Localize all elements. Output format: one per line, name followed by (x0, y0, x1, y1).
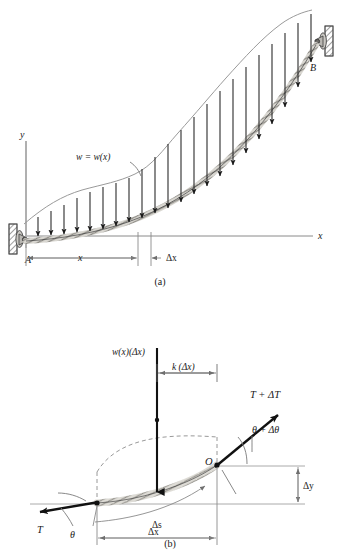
tension-left-label: T (37, 524, 44, 535)
angle-left-leader (61, 508, 73, 526)
arc-length-ext-left (93, 506, 97, 526)
support-right-label: B (310, 62, 316, 73)
moment-arm-label: k (Δx) (172, 362, 195, 373)
load-function-label: w = w(x) (76, 152, 110, 163)
dimension-dx-label: Δx (148, 527, 159, 537)
normal-tick (222, 470, 236, 494)
panel-a: A B y x (0, 0, 341, 290)
angle-left-label: θ (70, 529, 75, 540)
moment-arm-dimension: k (Δx) (157, 362, 217, 382)
panel-b-caption: (b) (164, 538, 176, 550)
dimension-x-label: x (77, 252, 83, 263)
angle-right-label: θ + Δθ (252, 424, 279, 435)
dimension-dy-label: Δy (303, 481, 314, 491)
support-left-label: A (24, 254, 32, 265)
angle-left-arc (58, 493, 86, 501)
x-axis-label: x (317, 230, 323, 241)
dimension-dx-label: Δx (166, 253, 177, 263)
panel-b: w(x)(Δx) k (Δx) T θ T + ΔT θ + Δθ O Δs (0, 290, 341, 554)
panel-a-caption: (a) (154, 276, 165, 288)
resultant-load-label: w(x)(Δx) (112, 347, 145, 358)
tension-left-arrow (40, 502, 99, 512)
tension-right-label: T + ΔT (250, 389, 281, 400)
dimension-dy-group: Δy (298, 467, 314, 502)
figure-root: A B y x (0, 0, 341, 554)
y-axis-label: y (19, 129, 25, 140)
load-centroid-dot (155, 418, 159, 422)
support-right (315, 26, 333, 56)
origin-label: O (205, 456, 213, 467)
